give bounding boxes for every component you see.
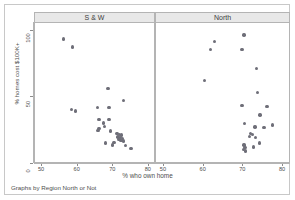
- data-point: [70, 108, 73, 111]
- data-point: [242, 33, 245, 36]
- panel-header-north: North: [155, 12, 290, 23]
- data-point: [122, 139, 125, 142]
- data-point: [213, 40, 216, 43]
- y-axis-title: % homes cost $100K+: [13, 14, 20, 134]
- x-axis-line: [155, 163, 290, 164]
- panel-header-label: S & W: [85, 14, 105, 21]
- data-point: [262, 126, 265, 129]
- data-point: [106, 87, 109, 90]
- panel-header-sw: S & W: [34, 12, 155, 23]
- x-axis-title: % who own home: [0, 172, 295, 179]
- data-point: [255, 67, 258, 70]
- x-axis-line: [34, 163, 155, 164]
- data-point: [104, 141, 107, 144]
- panel-header-label: North: [214, 14, 231, 21]
- data-point: [209, 48, 212, 51]
- data-point: [253, 125, 256, 128]
- data-point: [244, 149, 247, 152]
- data-point: [111, 143, 114, 146]
- data-point: [252, 145, 255, 148]
- y-tick-label: 50: [25, 96, 31, 112]
- data-point: [129, 147, 132, 150]
- data-point: [258, 113, 261, 116]
- data-point: [62, 37, 65, 40]
- data-point: [74, 109, 77, 112]
- data-point: [243, 122, 246, 125]
- panel-plot-sw: [34, 23, 155, 163]
- data-point: [107, 106, 110, 109]
- data-point: [240, 104, 243, 107]
- data-point: [256, 91, 259, 94]
- data-point: [240, 48, 243, 51]
- data-point: [103, 125, 106, 128]
- data-point: [122, 99, 125, 102]
- data-point: [97, 118, 100, 121]
- data-point: [71, 45, 74, 48]
- data-point: [258, 141, 261, 144]
- panel-plot-north: [155, 23, 290, 163]
- data-point: [203, 79, 206, 82]
- data-point: [96, 106, 99, 109]
- data-point: [254, 136, 257, 139]
- data-point: [271, 123, 274, 126]
- data-point: [107, 118, 110, 121]
- data-point: [124, 144, 127, 147]
- data-point: [96, 129, 99, 132]
- graph-figure: % homes cost $100K+ 050100 S & WNorth 50…: [0, 0, 295, 200]
- data-point: [109, 129, 112, 132]
- graph-caption: Graphs by Region North or Not: [11, 184, 96, 191]
- y-tick-label: 100: [25, 30, 31, 46]
- data-point: [265, 105, 268, 108]
- data-point: [248, 135, 251, 138]
